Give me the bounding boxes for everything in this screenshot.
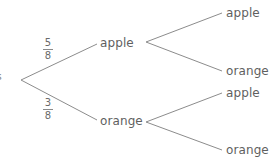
probability-apple: 5 8 [43,38,53,61]
fraction-denominator: 8 [43,51,53,61]
probability-orange: 3 8 [43,98,53,121]
fraction-numerator: 5 [43,38,53,48]
branch-orange-apple [146,93,222,122]
node-apple-orange: orange [226,64,269,78]
node-orange: orange [100,114,143,128]
node-apple: apple [100,36,134,50]
node-apple-apple: apple [226,6,260,20]
node-orange-orange: orange [226,143,269,157]
branch-root-apple [21,44,97,80]
node-orange-apple: apple [226,86,260,100]
fraction-denominator: 8 [43,111,53,121]
branch-root-orange [21,80,97,120]
branch-orange-orange [146,122,222,150]
fraction-numerator: 3 [43,98,53,108]
branch-apple-orange [146,42,222,71]
branch-apple-apple [146,13,222,42]
